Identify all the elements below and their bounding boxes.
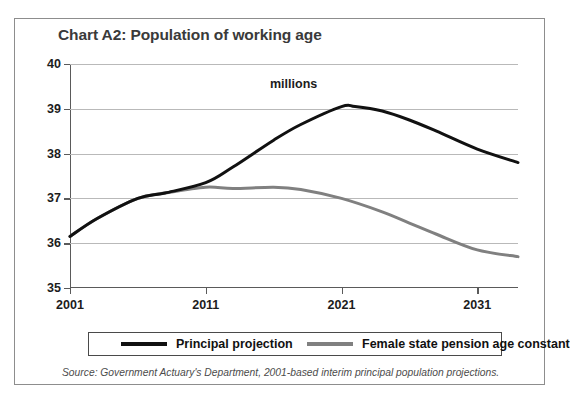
- chart-title: Chart A2: Population of working age: [58, 26, 322, 44]
- x-tick-mark: [206, 288, 207, 294]
- x-tick-mark: [342, 288, 343, 294]
- x-axis-label: 2021: [328, 298, 356, 312]
- x-axis-label: 2031: [463, 298, 491, 312]
- legend-entry[interactable]: Principal projection: [121, 333, 293, 355]
- legend-swatch-icon: [121, 342, 167, 345]
- y-axis-label: 40: [47, 57, 61, 71]
- x-tick-mark: [70, 288, 71, 294]
- y-axis-label: 37: [47, 191, 61, 205]
- y-axis-label: 36: [47, 236, 61, 250]
- series-line: [70, 105, 518, 236]
- y-axis-label: 35: [47, 281, 61, 295]
- plot-area: 353637383940 2001201120212031 millions: [70, 64, 518, 288]
- legend-label: Principal projection: [176, 337, 293, 351]
- series-lines: [70, 64, 518, 288]
- legend-swatch-icon: [307, 342, 353, 345]
- x-tick-mark: [477, 288, 478, 294]
- y-axis-label: 38: [47, 147, 61, 161]
- legend-label: Female state pension age constant: [362, 337, 570, 351]
- y-axis-label: 39: [47, 102, 61, 116]
- chart-legend: Principal projectionFemale state pension…: [88, 332, 502, 356]
- x-axis-label: 2011: [192, 298, 219, 312]
- source-note: Source: Government Actuary's Department,…: [62, 367, 499, 378]
- x-axis-label: 2001: [56, 298, 84, 312]
- legend-entry[interactable]: Female state pension age constant: [307, 333, 570, 355]
